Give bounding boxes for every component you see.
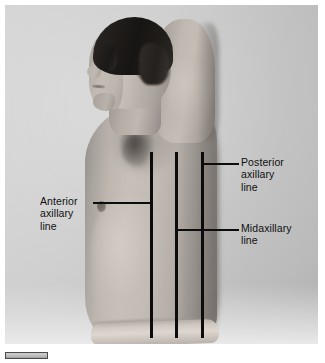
anterior-axillary-line-label: Anterior axillary line [40, 195, 98, 232]
midaxillary-leader-line [177, 229, 239, 231]
chin [93, 93, 115, 111]
caption-bar [5, 352, 48, 359]
midaxillary-line-label: Midaxillary line [241, 222, 321, 247]
posterior-axillary-line [201, 152, 204, 338]
axillary-hair [123, 135, 149, 165]
sideburn [97, 45, 117, 71]
nape-hair [139, 43, 169, 85]
posterior-axillary-line-label: Posterior axillary line [241, 156, 321, 193]
anatomical-figure: Anterior axillary line Posterior axillar… [0, 0, 325, 363]
back-contour-shadow [175, 109, 219, 337]
arm-edge-shadow [197, 23, 219, 141]
abdomen-highlight [91, 195, 165, 325]
anterior-leader-line [93, 202, 152, 204]
midaxillary-line [175, 152, 178, 338]
anterior-axillary-line [150, 152, 153, 338]
posterior-leader-line [203, 163, 239, 165]
